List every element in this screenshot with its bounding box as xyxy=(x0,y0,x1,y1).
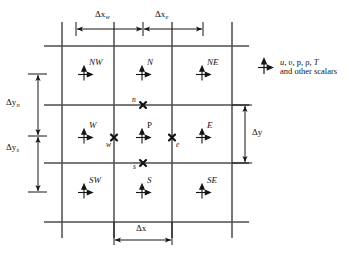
node-glyph-W xyxy=(78,129,92,143)
node-label-P: P xyxy=(147,121,152,130)
dim-dxe-sub: e xyxy=(165,13,168,20)
dim-dx-base: Δx xyxy=(136,223,146,233)
dim-dxw-sub: w xyxy=(105,13,110,20)
node-label-W: W xyxy=(89,121,97,130)
dim-dxe-base: Δx xyxy=(155,9,165,19)
right-dimension-lines xyxy=(232,105,252,163)
face-label-n: n xyxy=(132,96,136,104)
face-label-s: s xyxy=(133,163,136,171)
node-label-NE: NE xyxy=(207,58,219,67)
dim-dyn-base: Δy xyxy=(6,97,16,107)
left-dimension-lines xyxy=(28,74,47,192)
dim-dys-sub: s xyxy=(16,146,19,153)
legend-velocity-cross-icon xyxy=(258,59,273,74)
dimension-label-dy-n: Δyn xyxy=(6,98,20,108)
top-dimension-lines xyxy=(76,22,203,36)
node-glyph-E xyxy=(196,129,210,143)
diagram-canvas xyxy=(0,0,362,253)
node-glyph-SW xyxy=(78,184,92,198)
dimension-label-dx: Δx xyxy=(136,224,146,233)
dim-dxw-base: Δx xyxy=(95,9,105,19)
dimension-label-dx-w: Δxw xyxy=(95,10,110,20)
legend-text-block: u, υ, p, ρ, T and other scalars xyxy=(280,58,337,75)
node-glyph-N xyxy=(136,66,150,80)
node-glyph-SE xyxy=(196,184,210,198)
node-label-N: N xyxy=(147,58,153,67)
dimension-label-dy-s: Δys xyxy=(6,143,19,153)
node-glyph-NE xyxy=(196,66,210,80)
staggered-grid-diagram: NW N NE W P E SW S SE n w e s Δxw Δxe Δy… xyxy=(0,0,362,253)
face-label-e: e xyxy=(176,141,179,149)
legend-scalars-line: and other scalars xyxy=(280,67,337,76)
node-glyph-P xyxy=(136,129,150,143)
node-label-SW: SW xyxy=(89,176,101,185)
dim-dyn-sub: n xyxy=(16,101,19,108)
dimension-label-dy: Δy xyxy=(252,128,262,137)
node-label-E: E xyxy=(207,121,213,130)
dim-dys-base: Δy xyxy=(6,142,16,152)
node-label-SE: SE xyxy=(207,176,217,185)
grid-vertical-lines xyxy=(62,22,232,238)
node-glyph-S xyxy=(136,184,150,198)
dimension-label-dx-e: Δxe xyxy=(155,10,168,20)
face-label-w: w xyxy=(106,141,111,149)
node-label-NW: NW xyxy=(89,58,103,67)
dim-dy-base: Δy xyxy=(252,127,262,137)
node-glyph-NW xyxy=(78,66,92,80)
node-label-S: S xyxy=(147,176,152,185)
